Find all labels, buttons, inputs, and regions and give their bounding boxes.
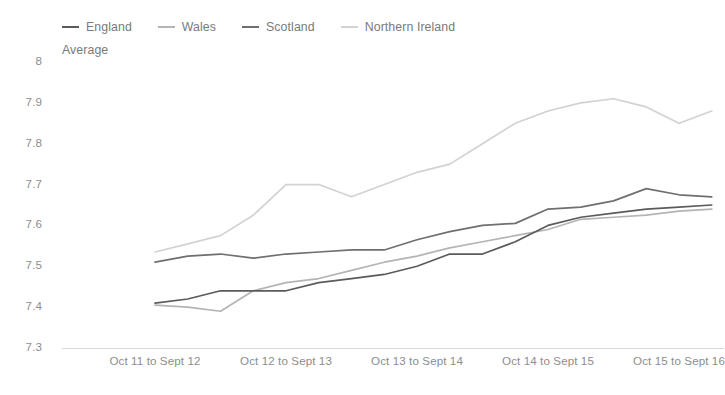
series-line-england: [155, 205, 712, 303]
series-line-northern-ireland: [155, 99, 712, 252]
